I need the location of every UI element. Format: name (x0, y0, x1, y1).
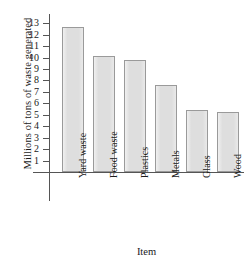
x-tick-label-food-waste: Food waste (108, 131, 119, 178)
x-tick-label-glass: Glass (201, 155, 212, 178)
y-tick-label: 11 (24, 41, 39, 51)
y-tick-label: 4 (24, 121, 39, 131)
y-tick-label: 2 (24, 144, 39, 154)
y-tick-label: 12 (24, 30, 39, 40)
x-axis-title: Item (49, 246, 244, 257)
bar-chart: Millions of tons of waste generated 1234… (0, 0, 251, 264)
y-tick-label: 1 (24, 156, 39, 166)
y-tick-label: 8 (24, 75, 39, 85)
x-tick-label-plastics: Plastics (139, 147, 150, 178)
y-tick-label: 5 (24, 110, 39, 120)
x-tick-label-yard-waste: Yard waste (77, 133, 88, 178)
y-tick-label: 7 (24, 87, 39, 97)
y-tick-label: 10 (24, 53, 39, 63)
y-tick-label: 9 (24, 64, 39, 74)
y-tick-label: 13 (24, 18, 39, 28)
x-tick-label-metals: Metals (170, 150, 181, 178)
y-tick-label: 6 (24, 98, 39, 108)
x-tick-label-wood: Wood (232, 154, 243, 178)
y-tick-label: 3 (24, 133, 39, 143)
